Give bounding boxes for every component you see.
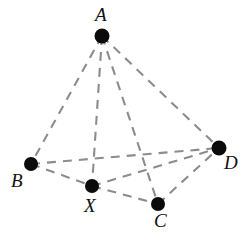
edge-ad <box>102 36 219 148</box>
vertex-point-b <box>24 157 38 171</box>
edge-xc <box>92 186 158 204</box>
edge-bx <box>31 164 92 186</box>
edge-ax <box>92 36 102 186</box>
edge-xd <box>92 148 219 186</box>
vertex-label-a: A <box>95 5 107 24</box>
vertex-label-d: D <box>224 153 238 172</box>
vertex-label-x: X <box>84 196 96 215</box>
edge-layer <box>31 36 219 204</box>
tetrahedron-figure: ABCDX <box>0 0 252 246</box>
tetrahedron-canvas <box>0 0 252 246</box>
vertex-label-b: B <box>11 171 23 190</box>
edge-ab <box>31 36 102 164</box>
vertex-point-c <box>151 197 165 211</box>
vertex-label-c: C <box>154 211 167 230</box>
edge-ac <box>102 36 158 204</box>
vertex-point-a <box>95 29 110 44</box>
vertex-point-x <box>85 179 99 193</box>
